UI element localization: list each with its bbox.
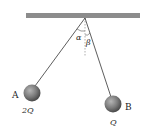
angle-alpha-arc bbox=[77, 29, 85, 31]
string-b bbox=[85, 18, 111, 97]
ball-a-charge: 2Q bbox=[21, 106, 34, 115]
ball-b-charge: Q bbox=[110, 118, 117, 127]
ball-b bbox=[105, 96, 122, 113]
ball-b-label: B bbox=[125, 102, 132, 112]
angle-beta-label: β bbox=[85, 38, 91, 47]
angle-alpha-label: α bbox=[76, 33, 82, 42]
ceiling-bar bbox=[26, 13, 140, 18]
ball-a bbox=[24, 85, 41, 102]
pendulum-diagram: α β A 2Q B Q bbox=[0, 0, 147, 132]
string-a bbox=[35, 18, 85, 86]
angle-beta-arc bbox=[85, 33, 90, 35]
ball-a-label: A bbox=[11, 90, 19, 100]
